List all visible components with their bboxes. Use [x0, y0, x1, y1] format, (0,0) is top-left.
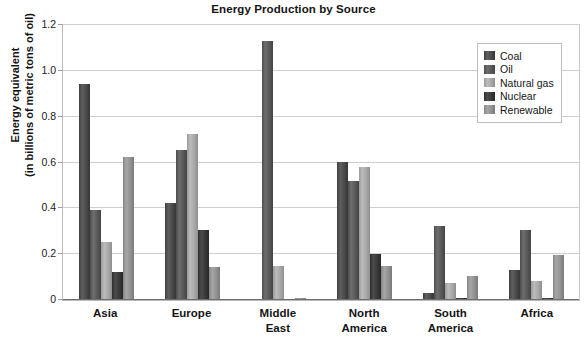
bar-group — [235, 25, 321, 300]
bar[interactable] — [273, 266, 284, 299]
bar[interactable] — [553, 255, 564, 299]
bar[interactable] — [509, 270, 520, 299]
y-axis-tick-label: 0.4 — [18, 201, 56, 213]
bar-fill — [520, 230, 531, 299]
legend-item-natural-gas[interactable]: Natural gas — [484, 76, 554, 90]
bar-fill — [434, 226, 445, 299]
bar-fill — [262, 41, 273, 299]
x-axis-baseline — [63, 299, 579, 300]
bar-fill — [467, 276, 478, 299]
bar-fill — [101, 242, 112, 299]
bars — [337, 24, 392, 299]
x-axis-tick-label: Asia — [62, 303, 148, 345]
legend-label: Renewable — [500, 104, 553, 116]
chart-legend[interactable]: CoalOilNatural gasNuclearRenewable — [477, 43, 562, 123]
bar[interactable] — [262, 41, 273, 299]
bar-fill — [165, 203, 176, 299]
bar[interactable] — [209, 267, 220, 299]
y-axis-tick-mark — [58, 299, 62, 300]
legend-swatch-icon — [484, 65, 495, 74]
bar-fill — [553, 255, 564, 299]
bar-fill — [209, 267, 220, 299]
y-axis-title-line-1: Energy equivalent — [8, 48, 22, 143]
x-axis-tick-labels: AsiaEuropeMiddleEastNorthAmericaSouthAme… — [62, 303, 580, 345]
bar-fill — [79, 84, 90, 299]
y-axis-tick-mark — [58, 253, 62, 254]
bar[interactable] — [337, 162, 348, 300]
bar-fill — [531, 281, 542, 299]
bar[interactable] — [176, 150, 187, 299]
bar[interactable] — [165, 203, 176, 299]
bar[interactable] — [123, 157, 134, 299]
bar-group — [63, 25, 149, 300]
bar[interactable] — [359, 167, 370, 299]
bars — [423, 24, 478, 299]
bar-fill — [273, 266, 284, 299]
bar[interactable] — [531, 281, 542, 299]
x-axis-tick-label-line: Europe — [148, 306, 234, 321]
bar-fill — [370, 254, 381, 299]
bar[interactable] — [467, 276, 478, 299]
x-axis-tick-label-line: America — [321, 321, 407, 336]
legend-swatch-icon — [484, 105, 495, 114]
bar-fill — [509, 270, 520, 299]
y-axis-tick-mark — [58, 207, 62, 208]
legend-label: Oil — [500, 63, 513, 75]
legend-item-nuclear[interactable]: Nuclear — [484, 90, 554, 104]
legend-swatch-icon — [484, 78, 495, 87]
bar[interactable] — [445, 283, 456, 299]
legend-label: Coal — [500, 50, 522, 62]
bar-fill — [337, 162, 348, 300]
x-axis-tick-label: Europe — [148, 303, 234, 345]
bar-fill — [176, 150, 187, 299]
legend-item-renewable[interactable]: Renewable — [484, 103, 554, 117]
bar[interactable] — [348, 181, 359, 299]
bar[interactable] — [101, 242, 112, 299]
x-axis-tick-label-line: Africa — [494, 306, 580, 321]
bar-fill — [381, 266, 392, 299]
y-axis-tick-label: 0.6 — [18, 156, 56, 168]
y-axis-tick-mark — [58, 162, 62, 163]
legend-label: Nuclear — [500, 90, 536, 102]
bar-fill — [187, 134, 198, 299]
bar[interactable] — [112, 272, 123, 300]
y-axis-tick-label: 1.2 — [18, 18, 56, 30]
bar-fill — [359, 167, 370, 299]
y-axis-tick-mark — [58, 116, 62, 117]
x-axis-tick-label-line: Middle — [235, 306, 321, 321]
x-axis-tick-label: MiddleEast — [235, 303, 321, 345]
bar-group — [149, 25, 235, 300]
y-axis-tick-label: 1.0 — [18, 64, 56, 76]
legend-item-oil[interactable]: Oil — [484, 63, 554, 77]
bars — [79, 24, 134, 299]
x-axis-tick-label: NorthAmerica — [321, 303, 407, 345]
bar[interactable] — [79, 84, 90, 299]
bar-fill — [90, 210, 101, 299]
bar[interactable] — [381, 266, 392, 299]
bar[interactable] — [434, 226, 445, 299]
bar-fill — [112, 272, 123, 300]
x-axis-tick-label-line: East — [235, 321, 321, 336]
bars — [251, 24, 306, 299]
y-axis-tick-mark — [58, 70, 62, 71]
bar[interactable] — [198, 230, 209, 299]
bar[interactable] — [370, 254, 381, 299]
bar[interactable] — [90, 210, 101, 299]
y-axis-tick-label: 0.8 — [18, 110, 56, 122]
bar-fill — [123, 157, 134, 299]
legend-swatch-icon — [484, 92, 495, 101]
chart-figure: Energy Production by Source Energy equiv… — [0, 0, 587, 345]
y-axis-title: Energy equivalent (in billions of metric… — [7, 0, 37, 210]
legend-item-coal[interactable]: Coal — [484, 49, 554, 63]
bar-group — [321, 25, 407, 300]
x-axis-tick-label-line: North — [321, 306, 407, 321]
y-axis-tick-label: 0 — [18, 293, 56, 305]
x-axis-tick-label: Africa — [494, 303, 580, 345]
x-axis-tick-label-line: Asia — [62, 306, 148, 321]
legend-label: Natural gas — [500, 77, 554, 89]
bar-fill — [198, 230, 209, 299]
bar[interactable] — [187, 134, 198, 299]
bar[interactable] — [520, 230, 531, 299]
x-axis-tick-label-line: America — [407, 321, 493, 336]
chart-title: Energy Production by Source — [0, 3, 587, 15]
